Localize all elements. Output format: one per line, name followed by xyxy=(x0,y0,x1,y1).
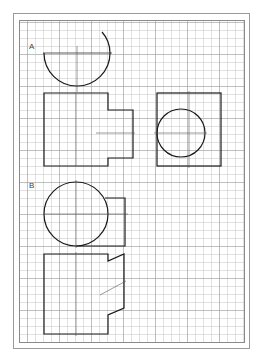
figure-b-front-view xyxy=(44,252,126,336)
figure-b-top-view xyxy=(44,180,128,248)
figure-a-side-view xyxy=(154,91,221,168)
figure-a-front-view xyxy=(44,93,135,166)
technical-drawings xyxy=(0,0,264,363)
figure-a-top-view xyxy=(43,32,112,92)
